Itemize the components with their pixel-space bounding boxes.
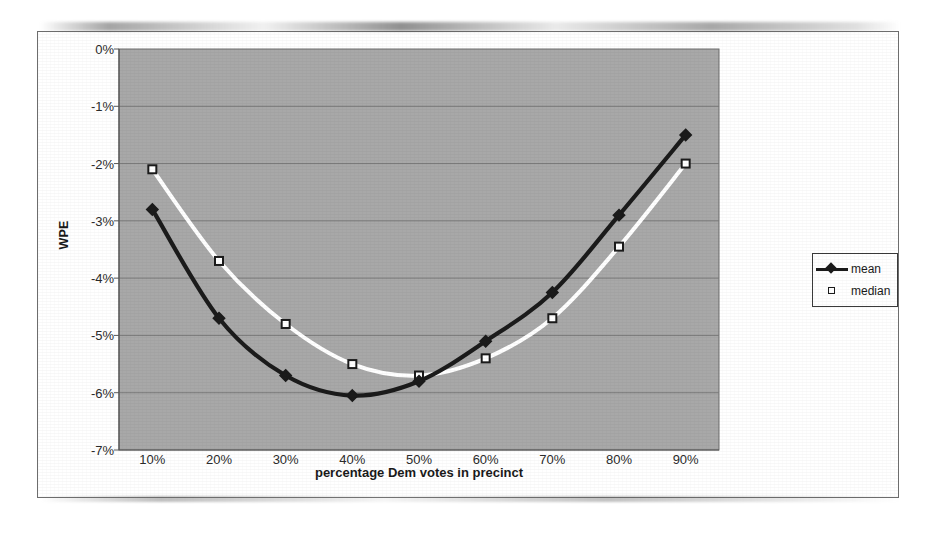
data-point-marker-median [282,320,290,328]
scan-smudge-top [40,22,900,31]
chart-legend: mean median [812,253,898,307]
data-point-marker-median [148,165,156,173]
legend-label-mean: mean [851,262,881,276]
data-point-marker-median [348,360,356,368]
legend-marker-mean-icon [813,259,851,279]
legend-marker-median-icon [813,281,851,301]
data-point-marker-median [682,160,690,168]
plot-area [38,32,900,499]
figure-frame: WPE 0%-1%-2%-3%-4%-5%-6%-7% 10%20%30%40%… [37,31,899,498]
data-point-marker-median [482,354,490,362]
x-axis-title: percentage Dem votes in precinct [119,465,719,480]
data-point-marker-median [548,314,556,322]
legend-item-median: median [813,280,897,302]
chart-canvas: WPE 0%-1%-2%-3%-4%-5%-6%-7% 10%20%30%40%… [38,32,900,499]
legend-label-median: median [851,284,890,298]
data-point-marker-median [615,243,623,251]
data-point-marker-median [215,257,223,265]
legend-item-mean: mean [813,258,897,280]
